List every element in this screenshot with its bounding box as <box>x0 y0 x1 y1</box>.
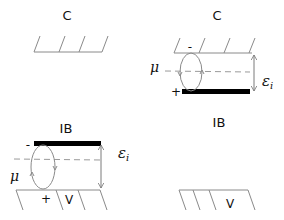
plus-sign: + <box>41 192 51 206</box>
panel-top-right: C μ εi - + <box>150 8 273 99</box>
panel-bottom-right: IB V <box>179 115 255 211</box>
plus-sign: + <box>171 85 181 99</box>
surface-label-v: V <box>226 197 235 211</box>
electrode-surface-c <box>174 38 255 53</box>
mu-label: μ <box>150 59 159 75</box>
epsilon-subscript: i <box>270 80 273 91</box>
diagram-canvas: C C μ εi - + IB <box>0 0 284 220</box>
chemical-potential-dashed-line <box>165 71 250 72</box>
epsilon-symbol: ε <box>262 72 270 90</box>
minus-sign: - <box>26 138 30 152</box>
mu-label: μ <box>10 168 19 184</box>
electrode-surface-v <box>179 190 255 210</box>
epsilon-symbol: ε <box>118 144 126 162</box>
epsilon-subscript: i <box>126 152 129 163</box>
insulating-barrier-bar <box>182 89 250 94</box>
panel-top-left: C <box>34 8 108 52</box>
electrode-surface-v <box>16 190 107 210</box>
minus-sign: - <box>188 40 192 54</box>
panel-title-c: C <box>212 8 221 23</box>
electrode-surface-c <box>34 36 108 52</box>
panel-title-c: C <box>62 8 71 23</box>
surface-label-v: V <box>65 193 74 207</box>
dipole-loop <box>31 145 55 189</box>
epsilon-label: εi <box>262 72 273 91</box>
panel-title-ib: IB <box>213 115 226 130</box>
epsilon-label: εi <box>118 144 129 163</box>
dipole-loop <box>180 53 202 91</box>
panel-bottom-left: IB μ εi - + V <box>10 121 129 210</box>
panel-title-ib: IB <box>60 121 73 136</box>
chemical-potential-dashed-line <box>14 159 101 160</box>
